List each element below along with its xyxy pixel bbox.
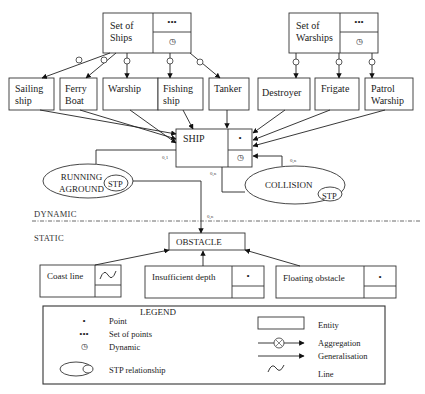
- legend-title: LEGEND: [140, 306, 176, 318]
- layer-dynamic-label: DYNAMIC: [34, 208, 77, 220]
- entity-fishing-ship: Fishing ship: [163, 83, 193, 107]
- legend-stp-relationship: STP relationship: [109, 364, 166, 376]
- point-icon: •: [364, 272, 396, 282]
- entity-destroyer: Destroyer: [262, 87, 301, 99]
- legend-dynamic: Dynamic: [109, 341, 140, 353]
- entity-ship-label: SHIP: [183, 133, 205, 145]
- entity-warship: Warship: [108, 83, 141, 95]
- dynamic-clock-icon: ◷: [340, 37, 378, 47]
- entity-coast-line: Coast line: [47, 270, 83, 282]
- legend-point: Point: [109, 315, 127, 327]
- stp-badge: STP: [322, 190, 337, 202]
- cardinality-label: 0,n: [207, 214, 213, 220]
- entity-ferry-boat: Ferry Boat: [65, 83, 87, 107]
- dynamic-clock-icon: ◷: [228, 153, 252, 163]
- entity-set-of-warships-label: Set of Warships: [296, 20, 333, 44]
- cardinality-label: 0,1: [162, 155, 168, 161]
- point-icon: •: [232, 271, 264, 281]
- stp-badge: STP: [108, 178, 123, 190]
- legend-entity: Entity: [318, 319, 339, 331]
- point-icon: •: [228, 133, 252, 143]
- relationship-collision-label: COLLISION: [265, 179, 313, 191]
- cardinality-label: 0,n: [290, 158, 296, 164]
- set-of-points-icon: •••: [74, 329, 94, 339]
- entity-sailing-ship: Sailing ship: [15, 83, 43, 107]
- dynamic-clock-icon: ◷: [153, 37, 191, 47]
- entity-insufficient-depth: Insufficient depth: [152, 271, 216, 283]
- legend-set-of-points: Set of points: [109, 328, 152, 340]
- entity-obstacle-label: OBSTACLE: [176, 236, 222, 248]
- layer-static-label: STATIC: [34, 232, 64, 244]
- cardinality-label: 0,n: [210, 171, 216, 177]
- set-of-points-icon: •••: [153, 17, 191, 27]
- entity-frigate: Frigate: [321, 83, 349, 95]
- set-of-points-icon: •••: [340, 17, 378, 27]
- point-icon: •: [74, 316, 94, 326]
- entity-set-of-ships-label: Set of Ships: [110, 20, 134, 44]
- legend-generalisation: Generalisation: [318, 350, 368, 362]
- entity-floating-obstacle: Floating obstacle: [283, 272, 345, 284]
- entity-tanker: Tanker: [214, 83, 242, 95]
- legend-aggregation: Aggregation: [318, 337, 361, 349]
- dynamic-clock-icon: ◷: [74, 342, 94, 352]
- relationship-running-aground-label: RUNNING AGROUND: [59, 171, 104, 195]
- legend-line: Line: [318, 368, 334, 380]
- diagram-canvas: [0, 0, 425, 394]
- entity-patrol-warship: Patrol Warship: [371, 83, 404, 107]
